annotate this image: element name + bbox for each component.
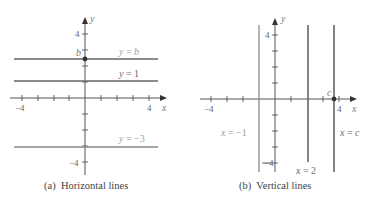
label-x-equals-c: x = c (339, 127, 360, 138)
panel-b-x-axis-label: x (351, 103, 357, 114)
panel-a-x-neg4-label: −4 (15, 103, 25, 113)
panel-b-x-neg4-label: −4 (204, 104, 214, 114)
label-y-equals-b: y = b (118, 46, 139, 57)
label-x-equals-2: x = 2 (295, 165, 316, 176)
panel-b-y-axis-label: y (280, 13, 286, 24)
caption-b: (b) Vertical lines (239, 180, 311, 192)
panel-b-y-pos4-label: 4 (265, 30, 270, 40)
caption-a: (a) Horizontal lines (44, 180, 128, 192)
point-b-on-y-axis (83, 57, 88, 62)
label-x-equals-neg1: x = −1 (220, 127, 247, 138)
point-c-on-x-axis (332, 97, 337, 102)
panel-a-x-arrow-icon (160, 95, 167, 101)
label-y-equals-1: y = 1 (118, 68, 139, 79)
panel-a-horizontal-lines: −4 4 x y 4 −4 b y = b y = 1 y = −3 (a) H… (10, 13, 167, 192)
figure: −4 4 x y 4 −4 b y = b y = 1 y = −3 (a) H… (0, 0, 372, 204)
panel-a-b-label: b (76, 47, 81, 58)
panel-a-x-axis-label: x (161, 102, 167, 113)
panel-a-y-arrow-icon (82, 17, 88, 24)
panel-b-vertical-lines: −4 4 x y 4 −4 c x = −1 x = 2 x = c (b) V… (200, 13, 360, 192)
panel-b-c-label: c (327, 87, 332, 98)
panel-b-x-arrow-icon (350, 96, 357, 102)
panel-a-y-pos4-label: 4 (75, 29, 80, 39)
panel-b-y-neg4-label: −4 (264, 158, 274, 168)
panel-a-y-neg4-label: −4 (69, 158, 79, 168)
panel-b-y-arrow-icon (272, 18, 278, 25)
panel-a-x-pos4-label: 4 (147, 103, 152, 113)
panel-a-y-axis-label: y (89, 13, 95, 24)
label-y-equals-neg3: y = −3 (118, 133, 145, 144)
panel-b-x-pos4-label: 4 (337, 104, 342, 114)
